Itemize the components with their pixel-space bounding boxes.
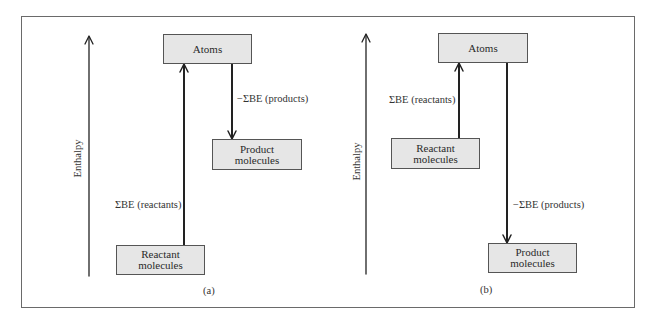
- reactant-molecules-box-b: Reactant molecules: [391, 138, 480, 169]
- atoms-box-a: Atoms: [163, 34, 252, 64]
- reactants-arrow-b: [455, 63, 463, 138]
- reactants-bond-energy-label-a: ΣBE (reactants): [115, 199, 181, 210]
- enthalpy-axis-label-a: Enthalpy: [72, 134, 83, 184]
- reactants-bond-energy-label-b: ΣBE (reactants): [389, 94, 455, 105]
- enthalpy-axis-arrow-a: [85, 36, 93, 276]
- reactants-arrow-a: [180, 64, 188, 245]
- enthalpy-axis-label-b: Enthalpy: [351, 137, 362, 187]
- reactant-box-b-line2: molecules: [413, 154, 458, 165]
- atoms-box-a-label: Atoms: [193, 44, 222, 55]
- products-arrow-a: [228, 64, 236, 139]
- reactant-box-b-line1: Reactant: [416, 143, 454, 154]
- products-arrow-b: [503, 63, 511, 243]
- product-box-a-line1: Product: [240, 144, 274, 155]
- atoms-box-b: Atoms: [438, 33, 528, 63]
- reactant-molecules-box-a: Reactant molecules: [116, 245, 205, 275]
- products-bond-energy-label-a: −ΣBE (products): [237, 93, 308, 104]
- reactant-box-a-line2: molecules: [138, 260, 183, 271]
- enthalpy-axis-arrow-b: [362, 34, 370, 274]
- product-molecules-box-b: Product molecules: [488, 243, 577, 273]
- atoms-box-b-label: Atoms: [468, 43, 497, 54]
- arrows-layer: [0, 0, 655, 328]
- panel-caption-b: (b): [480, 284, 492, 295]
- product-box-b-line2: molecules: [510, 258, 555, 269]
- products-bond-energy-label-b: −ΣBE (products): [513, 199, 584, 210]
- panel-caption-a: (a): [203, 285, 215, 296]
- product-molecules-box-a: Product molecules: [212, 139, 302, 170]
- product-box-a-line2: molecules: [235, 155, 280, 166]
